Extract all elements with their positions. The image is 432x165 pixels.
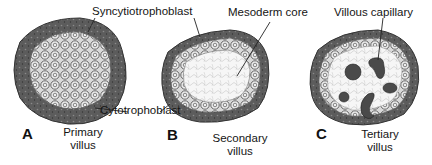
label-mesoderm-core: Mesoderm core: [228, 6, 308, 18]
caption-tertiary-line2: villus: [352, 141, 408, 154]
panel-letter-a: A: [22, 125, 33, 142]
caption-secondary-line2: villus: [205, 145, 275, 158]
panel-letter-b: B: [167, 126, 178, 143]
label-villous-capillary: Villous capillary: [334, 6, 413, 18]
label-cytotrophoblast: Cytotrophoblast: [100, 104, 181, 116]
syncytio-leader-b: [194, 18, 200, 37]
panel-letter-c: C: [316, 125, 327, 142]
caption-primary-line1: Primary: [58, 126, 108, 139]
caption-tertiary-line1: Tertiary: [352, 128, 408, 141]
caption-primary-villus: Primary villus: [58, 126, 108, 152]
label-syncytiotrophoblast: Syncytiotrophoblast: [92, 5, 192, 17]
caption-secondary-villus: Secondary villus: [205, 132, 275, 158]
caption-primary-line2: villus: [58, 139, 108, 152]
caption-secondary-line1: Secondary: [205, 132, 275, 145]
caption-tertiary-villus: Tertiary villus: [352, 128, 408, 154]
tertiary-villus-drawing: [310, 30, 419, 125]
